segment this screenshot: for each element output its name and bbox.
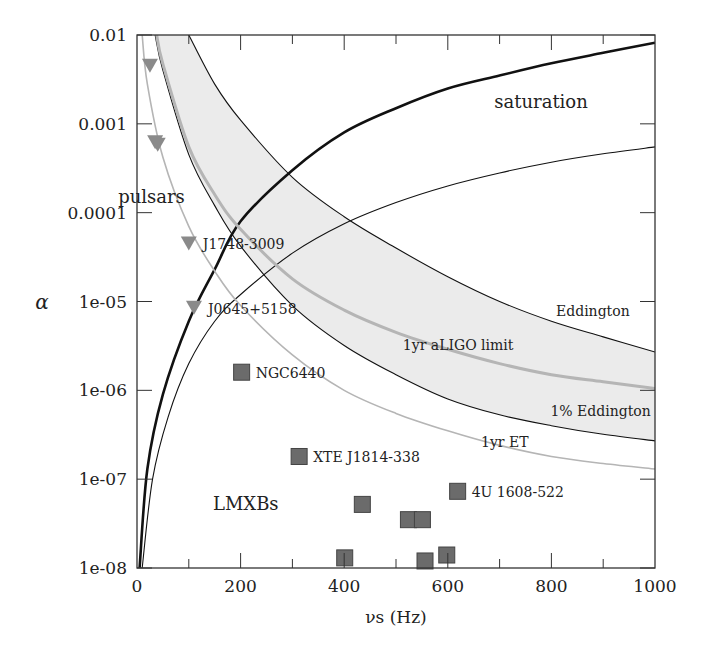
region-label: saturation xyxy=(494,91,588,112)
x-tick-label: 1000 xyxy=(633,576,676,596)
region-label: LMXBs xyxy=(213,493,279,514)
lmxb-marker xyxy=(337,550,353,566)
lmxb-marker xyxy=(291,448,307,464)
y-tick-label: 0.01 xyxy=(89,25,127,45)
lmxb-marker xyxy=(354,496,370,512)
y-tick-label: 1e-05 xyxy=(79,292,127,312)
pulsar-marker xyxy=(150,138,166,152)
lmxb-marker xyxy=(234,364,250,380)
y-axis-label: α xyxy=(35,290,49,314)
x-tick-label: 400 xyxy=(328,576,360,596)
x-tick-label: 200 xyxy=(224,576,256,596)
x-tick-label: 0 xyxy=(132,576,143,596)
curve-label: 1% Eddington xyxy=(550,403,650,419)
x-tick-label: 800 xyxy=(535,576,567,596)
y-tick-label: 1e-06 xyxy=(79,380,127,400)
y-tick-label: 1e-07 xyxy=(79,469,127,489)
source-label: XTE J1814-338 xyxy=(313,449,420,465)
source-label: J0645+5158 xyxy=(206,301,297,317)
y-tick-label: 0.001 xyxy=(78,114,127,134)
y-tick-label: 1e-08 xyxy=(79,558,127,578)
curve-label: 1yr aLIGO limit xyxy=(403,337,514,353)
lmxb-marker xyxy=(417,553,433,569)
alpha-vs-spin-frequency-chart: 1e-081e-071e-061e-050.00010.0010.0102004… xyxy=(0,0,707,651)
curve-label: Eddington xyxy=(556,303,630,319)
region-label: pulsars xyxy=(118,186,185,207)
lmxb-marker xyxy=(414,512,430,528)
curve-label: 1yr ET xyxy=(481,434,529,450)
x-axis-label: νs (Hz) xyxy=(365,607,427,627)
x-tick-label: 600 xyxy=(432,576,464,596)
lmxb-marker xyxy=(439,547,455,563)
source-label: J1748-3009 xyxy=(201,236,285,252)
source-label: 4U 1608-522 xyxy=(472,484,564,500)
lmxb-marker xyxy=(450,483,466,499)
source-label: NGC6440 xyxy=(256,365,326,381)
pulsar-marker xyxy=(181,236,197,250)
pulsar-marker xyxy=(186,301,202,315)
